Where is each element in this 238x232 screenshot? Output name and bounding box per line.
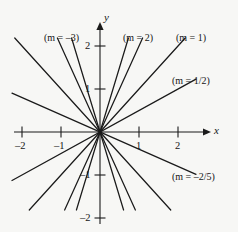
line-m-2-5 [12,93,196,174]
line-m-3 [76,38,128,210]
line-m-2 [57,38,135,210]
x-axis-arrow-icon [203,128,211,135]
line-m-1 [15,38,171,210]
x-tick-label-neg2: –2 [15,141,26,152]
y-tick-label-neg1: –1 [80,170,91,181]
slope-lines-group [12,38,196,210]
graph-figure: y x –2 –1 1 2 2 1 –1 –2 (m = –3) (m = 2)… [0,0,238,232]
x-tick-label-2: 2 [175,141,180,152]
annotation-m-neg2over5: (m = –2/5) [172,172,215,182]
y-axis-arrow-icon [96,22,103,30]
x-axis-label: x [214,125,219,136]
annotation-m-half: (m = 1/2) [172,76,210,86]
annotation-m-1: (m = 1) [176,33,206,43]
y-tick-label-1: 1 [85,84,90,95]
y-tick-label-neg2: –2 [80,213,91,224]
x-tick-label-1: 1 [136,141,141,152]
line-m-1 [29,38,185,210]
y-tick-label-2: 2 [85,41,90,52]
x-tick-label-neg1: –1 [54,141,65,152]
y-axis-label: y [104,12,109,23]
line-m-2 [65,38,143,210]
annotation-m-2: (m = 2) [123,33,153,43]
line-m-1-2 [12,79,196,180]
annotation-m-neg3: (m = –3) [44,33,79,43]
